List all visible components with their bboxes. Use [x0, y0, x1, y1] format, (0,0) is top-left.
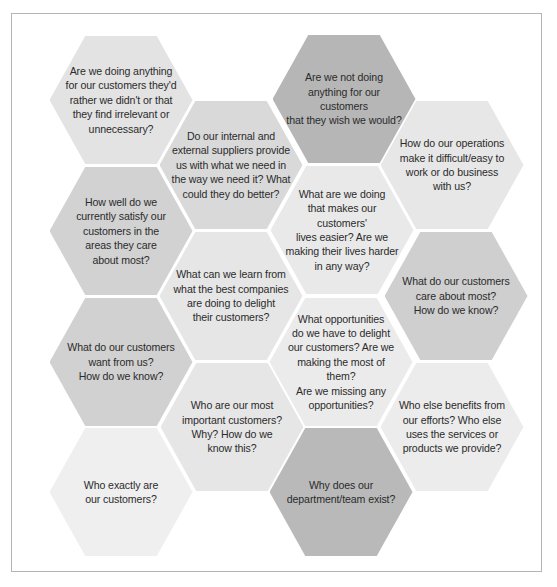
hexagon-question: Do our internal and external suppliers p… [172, 129, 291, 201]
hexagon-question: How well do we currently satisfy our cus… [76, 195, 166, 267]
hexagon-question: Who exactly are our customers? [84, 478, 158, 507]
hexagon-question: Are we doing anything for our customers … [66, 64, 177, 136]
hexagon-question: Who are our most important customers? Wh… [182, 398, 282, 456]
hexagon-question: What are we doing that makes our custome… [283, 187, 402, 273]
hexagon-question: What opportunities do we have to delight… [282, 312, 401, 413]
hexagon-question: What do our customers want from us? How … [67, 340, 174, 383]
hexagon-question: What can we learn from what the best com… [174, 267, 289, 325]
hexagon-question: Who else benefits from our efforts? Who … [399, 398, 505, 456]
hexagon-question: Are we not doing anything for our custom… [285, 70, 404, 128]
hexagon-question: What do our customers care about most? H… [402, 274, 509, 317]
hexagon-question: Why does our department/team exist? [287, 478, 396, 507]
hexagon-question: How do our operations make it difficult/… [400, 136, 505, 194]
caption-cutoff [14, 577, 544, 587]
